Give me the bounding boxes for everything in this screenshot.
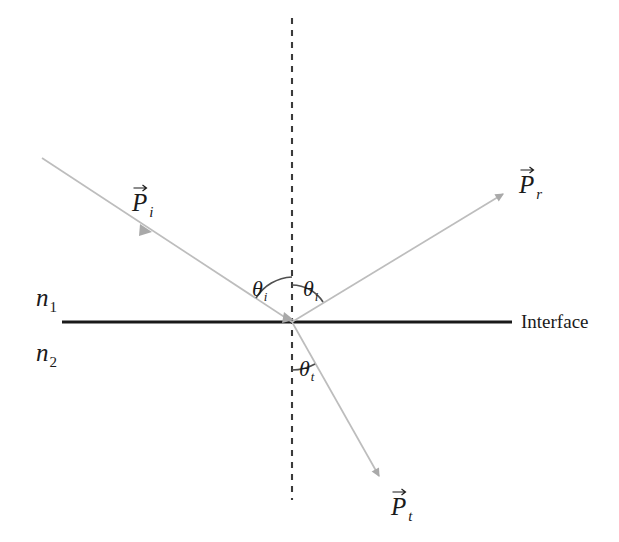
incident-vector-subscript: i bbox=[149, 204, 153, 220]
refractive-index-lower-symbol: n bbox=[36, 339, 49, 366]
refractive-index-lower-label: n2 bbox=[36, 340, 56, 365]
diagram-canvas bbox=[0, 0, 619, 542]
transmitted-ray bbox=[292, 322, 379, 476]
reflected-ray bbox=[292, 194, 503, 322]
angle-incidence-label: θi bbox=[252, 278, 266, 300]
transmitted-vector-symbol: P bbox=[391, 494, 406, 519]
incident-vector-symbol: P bbox=[132, 190, 147, 215]
incident-vector-label: Pi bbox=[132, 190, 151, 215]
angle-transmission-subscript: t bbox=[311, 369, 315, 384]
transmitted-vector-subscript: t bbox=[408, 508, 412, 524]
reflected-vector-label: Pr bbox=[519, 172, 540, 197]
reflected-vector-subscript: r bbox=[536, 186, 542, 202]
refractive-index-upper-label: n1 bbox=[36, 285, 56, 310]
interface-label: Interface bbox=[521, 312, 589, 331]
angle-incidence-symbol: θ bbox=[252, 276, 263, 301]
refractive-index-upper-subscript: 1 bbox=[50, 299, 58, 315]
angle-reflection-label: θi bbox=[303, 278, 317, 300]
transmitted-vector-label: Pt bbox=[391, 494, 410, 519]
angle-reflection-subscript: i bbox=[315, 289, 319, 304]
angle-transmission-symbol: θ bbox=[299, 356, 310, 381]
optics-ray-diagram: Pi Pr Pt n1 n2 Interface θi θi θt bbox=[0, 0, 619, 542]
refractive-index-upper-symbol: n bbox=[36, 284, 49, 311]
angle-transmission-label: θt bbox=[299, 358, 313, 380]
angle-reflection-symbol: θ bbox=[303, 276, 314, 301]
angle-incidence-subscript: i bbox=[264, 289, 268, 304]
refractive-index-lower-subscript: 2 bbox=[50, 354, 58, 370]
reflected-vector-symbol: P bbox=[519, 172, 534, 197]
